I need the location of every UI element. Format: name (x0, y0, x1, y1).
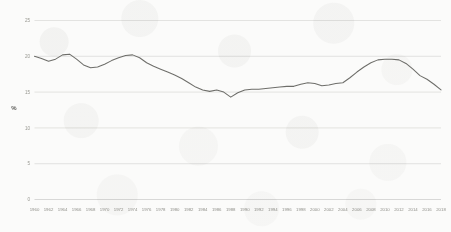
x-tick-label-1974: 1974 (128, 207, 138, 212)
x-tick-label-1968: 1968 (86, 207, 96, 212)
x-tick-label-1992: 1992 (254, 207, 264, 212)
y-axis-title: % (11, 105, 17, 111)
y-tick-label-5: 5 (27, 161, 30, 166)
y-tick-label-0: 0 (27, 197, 30, 202)
x-tick-label-1990: 1990 (240, 207, 250, 212)
x-tick-label-2004: 2004 (338, 207, 348, 212)
x-tick-label-2012: 2012 (394, 207, 404, 212)
y-gridlines: 0510152025 (25, 18, 441, 202)
x-tick-label-2000: 2000 (310, 207, 320, 212)
x-tick-label-1986: 1986 (212, 207, 222, 212)
y-tick-label-10: 10 (25, 126, 31, 131)
x-tick-label-1962: 1962 (44, 207, 54, 212)
x-tick-label-1978: 1978 (156, 207, 166, 212)
x-tick-label-1982: 1982 (184, 207, 194, 212)
x-tick-label-2008: 2008 (366, 207, 376, 212)
x-tick-label-1960: 1960 (30, 207, 40, 212)
x-tick-label-2016: 2016 (422, 207, 432, 212)
data-series-line-0 (35, 54, 442, 97)
x-tick-label-2002: 2002 (324, 207, 334, 212)
x-tick-label-1980: 1980 (170, 207, 180, 212)
x-tick-label-2014: 2014 (408, 207, 418, 212)
x-tick-label-1972: 1972 (114, 207, 124, 212)
y-tick-label-25: 25 (25, 18, 31, 23)
y-tick-label-15: 15 (25, 90, 31, 95)
x-tick-label-2006: 2006 (352, 207, 362, 212)
x-tick-label-1970: 1970 (100, 207, 110, 212)
chart-container: 0510152025%19601962196419661968197019721… (0, 0, 451, 232)
x-tick-label-2010: 2010 (380, 207, 390, 212)
x-tick-label-1998: 1998 (296, 207, 306, 212)
x-tick-label-1996: 1996 (282, 207, 292, 212)
x-tick-labels: 1960196219641966196819701972197419761978… (30, 207, 447, 212)
x-tick-label-2018: 2018 (436, 207, 446, 212)
x-tick-label-1988: 1988 (226, 207, 236, 212)
x-tick-label-1966: 1966 (72, 207, 82, 212)
x-tick-label-1984: 1984 (198, 207, 208, 212)
x-tick-label-1964: 1964 (58, 207, 68, 212)
x-tick-label-1976: 1976 (142, 207, 152, 212)
x-tick-label-1994: 1994 (268, 207, 278, 212)
line-chart: 0510152025%19601962196419661968197019721… (0, 0, 451, 232)
y-tick-label-20: 20 (25, 54, 31, 59)
